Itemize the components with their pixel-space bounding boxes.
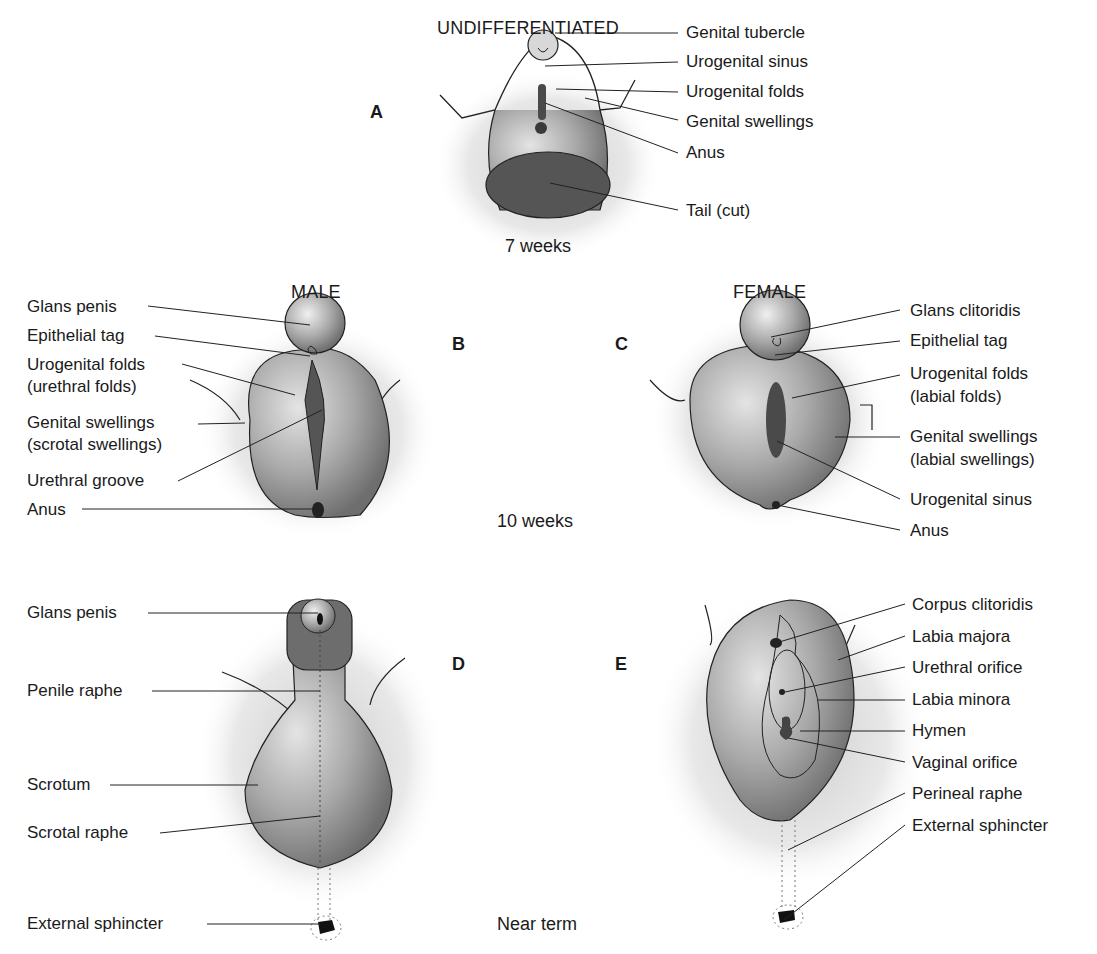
label-epithelial-tag-c: Epithelial tag [910, 331, 1007, 351]
label-scrotal-raphe-d: Scrotal raphe [27, 823, 128, 843]
panel-letter-b: B [452, 334, 465, 355]
panel-letter-c: C [615, 334, 628, 355]
label-urogenital-folds: Urogenital folds [686, 82, 804, 102]
diagram-illustrations [0, 0, 1097, 954]
label-anus-c: Anus [910, 521, 949, 541]
label-genital-swellings-c: Genital swellings [910, 427, 1038, 447]
label-urethral-folds-b: (urethral folds) [27, 377, 137, 397]
heading-male: MALE [291, 282, 341, 302]
panel-a-illustration [433, 30, 663, 260]
panel-e-illustration [650, 590, 930, 929]
label-scrotum-d: Scrotum [27, 775, 90, 795]
label-penile-raphe-d: Penile raphe [27, 681, 122, 701]
label-corpus-clitoridis-e: Corpus clitoridis [912, 595, 1033, 615]
panel-d-illustration [195, 599, 445, 940]
label-anus: Anus [686, 143, 725, 163]
panel-letter-e: E [615, 654, 627, 675]
label-glans-clitoridis-c: Glans clitoridis [910, 301, 1021, 321]
heading-undifferentiated: UNDIFFERENTIATED [437, 18, 619, 38]
panel-letter-d: D [452, 654, 465, 675]
label-scrotal-swellings-b: (scrotal swellings) [27, 435, 162, 455]
label-urogenital-folds-b: Urogenital folds [27, 355, 145, 375]
label-hymen-e: Hymen [912, 721, 966, 741]
label-epithelial-tag-b: Epithelial tag [27, 326, 124, 346]
label-urogenital-sinus-c: Urogenital sinus [910, 490, 1032, 510]
label-external-sphincter-e: External sphincter [912, 816, 1048, 836]
label-urethral-orifice-e: Urethral orifice [912, 658, 1023, 678]
label-vaginal-orifice-e: Vaginal orifice [912, 753, 1018, 773]
label-urogenital-folds-c: Urogenital folds [910, 364, 1028, 384]
label-glans-penis-d: Glans penis [27, 603, 117, 623]
label-genital-swellings-b: Genital swellings [27, 413, 155, 433]
panel-letter-a: A [370, 102, 383, 123]
label-perineal-raphe-e: Perineal raphe [912, 784, 1023, 804]
label-tail-cut: Tail (cut) [686, 201, 750, 221]
label-glans-penis-b: Glans penis [27, 297, 117, 317]
stage-7-weeks: 7 weeks [505, 236, 571, 257]
heading-female: FEMALE [733, 282, 806, 302]
panel-b-illustration [190, 293, 438, 540]
label-urogenital-sinus: Urogenital sinus [686, 52, 808, 72]
stage-10-weeks: 10 weeks [497, 511, 573, 532]
label-genital-tubercle: Genital tubercle [686, 23, 805, 43]
label-labial-swellings-c: (labial swellings) [910, 450, 1035, 470]
panel-c-illustration [650, 290, 890, 530]
label-labial-folds-c: (labial folds) [910, 387, 1002, 407]
label-urethral-groove-b: Urethral groove [27, 471, 144, 491]
label-genital-swellings: Genital swellings [686, 112, 814, 132]
label-anus-b: Anus [27, 500, 66, 520]
stage-near-term: Near term [497, 914, 577, 935]
label-labia-majora-e: Labia majora [912, 627, 1010, 647]
label-external-sphincter-d: External sphincter [27, 914, 163, 934]
label-labia-minora-e: Labia minora [912, 690, 1010, 710]
